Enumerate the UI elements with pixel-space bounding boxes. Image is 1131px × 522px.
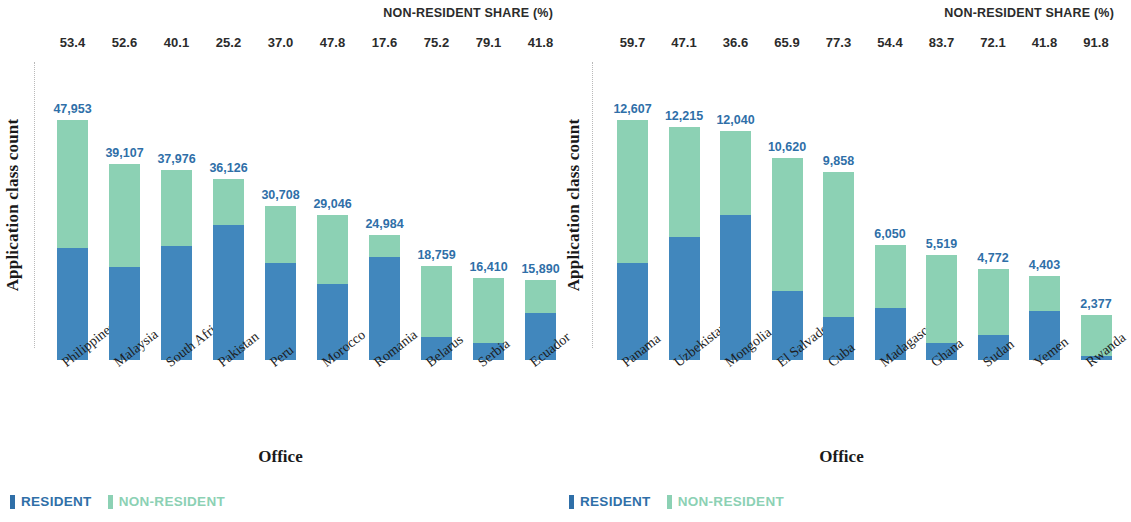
- bar-group[interactable]: 16,410: [473, 12, 504, 360]
- bar-group[interactable]: 24,984: [369, 12, 400, 360]
- stacked-bar[interactable]: [213, 179, 244, 360]
- bar-total-value-label: 30,708: [261, 188, 299, 202]
- stacked-bar[interactable]: [57, 120, 88, 360]
- legend-label-resident: RESIDENT: [580, 494, 651, 509]
- bar-total-value-label: 37,976: [157, 152, 195, 166]
- bar-segment-non-resident[interactable]: [875, 245, 906, 308]
- stacked-bar[interactable]: [669, 127, 700, 360]
- bar-total-value-label: 12,040: [716, 113, 754, 127]
- bar-total-value-label: 12,215: [665, 109, 703, 123]
- bar-group[interactable]: 47,953: [57, 12, 88, 360]
- bar-segment-non-resident[interactable]: [57, 120, 88, 248]
- legend-item-non-resident-right: NON-RESIDENT: [667, 494, 784, 509]
- legend-label-non-resident: NON-RESIDENT: [678, 494, 784, 509]
- bar-segment-non-resident[interactable]: [369, 235, 400, 257]
- legend-label-resident: RESIDENT: [21, 494, 92, 509]
- bar-segment-non-resident[interactable]: [421, 266, 452, 337]
- bar-segment-non-resident[interactable]: [926, 255, 957, 343]
- legend-item-resident-right: RESIDENT: [569, 494, 651, 509]
- bar-total-value-label: 12,607: [613, 102, 651, 116]
- bar-group[interactable]: 2,377: [1081, 12, 1112, 360]
- legend-label-non-resident: NON-RESIDENT: [119, 494, 225, 509]
- bar-total-value-label: 24,984: [365, 217, 403, 231]
- bar-group[interactable]: 12,607: [617, 12, 648, 360]
- legend-item-resident-left: RESIDENT: [10, 494, 92, 509]
- bar-segment-resident[interactable]: [265, 263, 296, 360]
- bar-group[interactable]: 36,126: [213, 12, 244, 360]
- legend-swatch-non-resident-icon: [667, 495, 672, 509]
- legend-left: RESIDENT NON-RESIDENT: [10, 494, 225, 509]
- legend-swatch-resident-icon: [10, 495, 15, 509]
- bar-group[interactable]: 4,772: [978, 12, 1009, 360]
- stacked-bar[interactable]: [265, 206, 296, 360]
- bar-segment-non-resident[interactable]: [772, 158, 803, 291]
- bar-total-value-label: 29,046: [313, 197, 351, 211]
- bar-total-value-label: 10,620: [768, 140, 806, 154]
- bar-total-value-label: 9,858: [823, 154, 854, 168]
- bar-group[interactable]: 12,215: [669, 12, 700, 360]
- bar-group[interactable]: 18,759: [421, 12, 452, 360]
- plot-area-right: 12,607Panama12,215Uzbekistan12,040Mongol…: [561, 0, 1122, 360]
- legend-swatch-resident-icon: [569, 495, 574, 509]
- bar-segment-non-resident[interactable]: [473, 278, 504, 343]
- bar-segment-non-resident[interactable]: [213, 179, 244, 225]
- legend-swatch-non-resident-icon: [108, 495, 113, 509]
- stacked-bar[interactable]: [720, 131, 751, 360]
- legend-item-non-resident-left: NON-RESIDENT: [108, 494, 225, 509]
- stacked-bar[interactable]: [161, 170, 192, 360]
- stacked-bar[interactable]: [109, 164, 140, 360]
- bar-group[interactable]: 6,050: [875, 12, 906, 360]
- bar-segment-non-resident[interactable]: [317, 215, 348, 284]
- bar-segment-non-resident[interactable]: [823, 172, 854, 317]
- bar-group[interactable]: 9,858: [823, 12, 854, 360]
- bar-group[interactable]: 29,046: [317, 12, 348, 360]
- x-axis-title-left: Office: [0, 447, 561, 467]
- bar-group[interactable]: 30,708: [265, 12, 296, 360]
- stacked-bar[interactable]: [772, 158, 803, 360]
- bar-segment-non-resident[interactable]: [720, 131, 751, 215]
- bar-total-value-label: 36,126: [209, 161, 247, 175]
- bar-group[interactable]: 4,403: [1029, 12, 1060, 360]
- bar-segment-non-resident[interactable]: [161, 170, 192, 246]
- bar-segment-non-resident[interactable]: [669, 127, 700, 237]
- bar-segment-non-resident[interactable]: [109, 164, 140, 267]
- chart-panel-left: NON-RESIDENT SHARE (%) 53.452.640.125.23…: [0, 0, 561, 522]
- bar-total-value-label: 2,377: [1080, 297, 1111, 311]
- bar-group[interactable]: 37,976: [161, 12, 192, 360]
- bar-group[interactable]: 39,107: [109, 12, 140, 360]
- bar-segment-non-resident[interactable]: [978, 269, 1009, 335]
- bar-group[interactable]: 15,890: [525, 12, 556, 360]
- bar-segment-non-resident[interactable]: [617, 120, 648, 263]
- bar-total-value-label: 5,519: [926, 237, 957, 251]
- bar-segment-non-resident[interactable]: [525, 280, 556, 313]
- bar-total-value-label: 6,050: [874, 227, 905, 241]
- bar-segment-non-resident[interactable]: [1029, 276, 1060, 311]
- bar-group[interactable]: 10,620: [772, 12, 803, 360]
- x-axis-title-right: Office: [561, 447, 1122, 467]
- bar-total-value-label: 4,772: [977, 251, 1008, 265]
- y-axis-line: [34, 62, 35, 348]
- bar-total-value-label: 16,410: [469, 260, 507, 274]
- bar-total-value-label: 47,953: [53, 102, 91, 116]
- chart-panel-right: NON-RESIDENT SHARE (%) 59.747.136.665.97…: [561, 0, 1122, 522]
- y-axis-line: [592, 62, 593, 348]
- bar-segment-non-resident[interactable]: [265, 206, 296, 263]
- bar-total-value-label: 39,107: [105, 146, 143, 160]
- bar-total-value-label: 15,890: [521, 262, 559, 276]
- bar-total-value-label: 18,759: [417, 248, 455, 262]
- legend-right: RESIDENT NON-RESIDENT: [569, 494, 784, 509]
- bar-group[interactable]: 12,040: [720, 12, 751, 360]
- bar-group[interactable]: 5,519: [926, 12, 957, 360]
- stacked-bar[interactable]: [617, 120, 648, 360]
- stacked-bar[interactable]: [823, 172, 854, 360]
- bar-total-value-label: 4,403: [1029, 258, 1060, 272]
- plot-area-left: 47,953Philippines39,107Malaysia37,976Sou…: [0, 0, 561, 360]
